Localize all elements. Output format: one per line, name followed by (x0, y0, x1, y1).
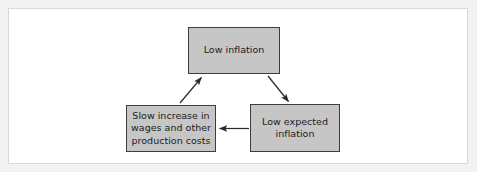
node-low-expected-inflation: Low expected inflation (250, 104, 340, 152)
arrow-inflation-to-expected (268, 76, 289, 102)
node-low-expected-inflation-label: Low expected inflation (262, 116, 328, 141)
arrow-layer (0, 0, 477, 172)
diagram-canvas: Low inflation Slow increase in wages and… (0, 0, 477, 172)
arrow-wages-to-inflation (180, 78, 202, 104)
node-slow-increase-wages: Slow increase in wages and other product… (126, 105, 216, 152)
figure-root: Low inflation Slow increase in wages and… (0, 0, 477, 172)
node-slow-increase-wages-label: Slow increase in wages and other product… (131, 110, 211, 147)
node-low-inflation: Low inflation (188, 27, 280, 74)
node-low-inflation-label: Low inflation (204, 44, 265, 56)
